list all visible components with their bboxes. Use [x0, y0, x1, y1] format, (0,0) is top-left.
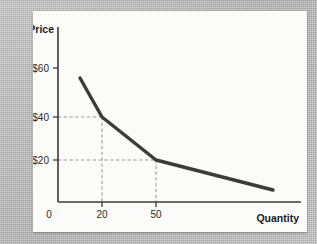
y-axis-title: Price — [33, 23, 54, 35]
x-tick-label-origin: 0 — [46, 209, 52, 220]
demand-curve-chart: Price Quantity $60 $40 $20 0 20 50 — [33, 11, 307, 232]
demand-curve-line — [80, 78, 273, 190]
y-tick-label-20: $20 — [33, 155, 49, 166]
x-axis-title: Quantity — [256, 212, 299, 224]
x-tick-label-20: 20 — [96, 209, 108, 220]
figure-card: Price Quantity $60 $40 $20 0 20 50 — [33, 11, 307, 232]
y-tick-label-40: $40 — [33, 112, 49, 123]
x-tick-label-50: 50 — [150, 209, 162, 220]
y-tick-label-60: $60 — [33, 63, 49, 74]
page-background: Price Quantity $60 $40 $20 0 20 50 — [0, 0, 317, 244]
